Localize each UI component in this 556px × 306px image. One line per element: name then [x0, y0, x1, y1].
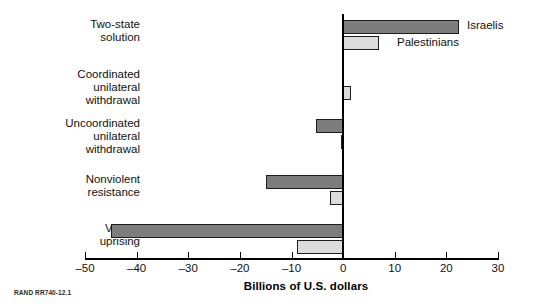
bar-uncoordinated-unilateral-withdrawal-israelis	[316, 119, 343, 133]
x-tick-label-10: 10	[375, 262, 415, 274]
x-tick-label--10: –10	[272, 262, 312, 274]
x-tick-label--50: –50	[65, 262, 105, 274]
plot-area	[85, 14, 498, 258]
source-note: RAND RR740-12.1	[14, 289, 71, 296]
x-tick--40	[137, 252, 138, 259]
legend-label-israelis: Israelis	[467, 19, 503, 31]
x-tick-label-30: 30	[478, 262, 518, 274]
bar-violent-uprising-israelis	[111, 224, 343, 238]
bar-violent-uprising-palestinians	[297, 240, 343, 254]
legend-label-palestinians: Palestinians	[397, 36, 459, 48]
zero-axis-line	[342, 14, 344, 258]
bar-nonviolent-resistance-israelis	[266, 175, 343, 189]
x-tick-label--30: –30	[168, 262, 208, 274]
x-tick--30	[188, 252, 189, 259]
x-tick-20	[446, 252, 447, 259]
x-tick-label--40: –40	[117, 262, 157, 274]
x-tick-label-20: 20	[426, 262, 466, 274]
bar-two-state-solution-palestinians	[343, 36, 379, 50]
x-tick--20	[240, 252, 241, 259]
x-tick-0	[343, 252, 344, 259]
bar-two-state-solution-israelis	[343, 20, 459, 34]
x-tick--50	[85, 252, 86, 259]
x-tick-label-0: 0	[323, 262, 363, 274]
bar-chart: Two-state solution Coordinated unilatera…	[0, 0, 556, 306]
x-tick-label--20: –20	[220, 262, 260, 274]
x-tick-30	[498, 252, 499, 259]
x-tick--10	[292, 252, 293, 259]
x-tick-10	[395, 252, 396, 259]
bar-coordinated-unilateral-withdrawal-palestinians	[343, 86, 351, 100]
x-axis-title: Billions of U.S. dollars	[0, 280, 556, 292]
